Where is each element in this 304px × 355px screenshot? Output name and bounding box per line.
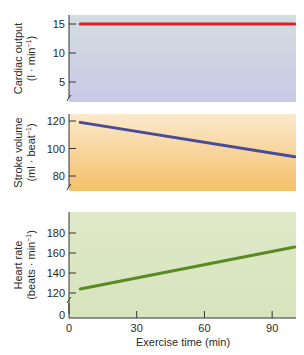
x-tick-label: 60 [198,322,210,334]
y-tick-label: 10 [53,47,65,59]
panel-background [69,212,296,318]
x-tick-label: 90 [266,322,278,334]
y-tick-label: 80 [53,170,65,182]
y-tick-label: 5 [59,76,65,88]
y-tick-label: 180 [47,227,65,239]
y-axis-label: Heart rate [12,241,24,290]
y-tick-label: 160 [47,247,65,259]
y-axis-unit: (ml · beat−1) [25,123,37,181]
y-axis-label: Stroke volume [12,117,24,187]
panel-heart-rate: 120140160180Heart rate(beats · min−1)003… [12,212,296,348]
panel-stroke-volume: 80100120Stroke volume(ml · beat−1) [12,114,296,191]
y-tick-label: 120 [47,287,65,299]
x-tick-label: 0 [66,322,72,334]
x-tick-label: 30 [131,322,143,334]
y-tick-label: 140 [47,267,65,279]
y-tick-label: 15 [53,18,65,30]
physiology-chart: 51015Cardiac output(l · min−1)80100120St… [0,0,304,355]
y-tick-label: 120 [47,115,65,127]
y-axis-unit: (l · min−1) [25,36,37,81]
panel-background [69,15,296,102]
y-tick-label: 100 [47,143,65,155]
y-axis-unit: (beats · min−1) [25,230,37,300]
y-axis-label: Cardiac output [12,23,24,95]
panel-cardiac-output: 51015Cardiac output(l · min−1) [12,15,296,102]
y-zero-label: 0 [59,309,65,321]
chart-svg: 51015Cardiac output(l · min−1)80100120St… [0,0,304,355]
x-axis-label: Exercise time (min) [136,336,230,348]
